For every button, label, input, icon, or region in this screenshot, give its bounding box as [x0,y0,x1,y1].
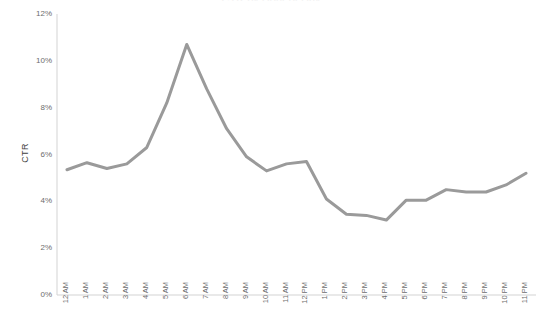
x-axis-ticks: 12 AM1 AM2 AM3 AM4 AM5 AM6 AM7 AM8 AM9 A… [57,296,536,334]
x-tick-label: 7 AM [201,280,210,324]
x-tick-label: 11 PM [520,280,529,324]
x-tick-label: 1 AM [81,280,90,324]
x-tick-label: 5 PM [400,280,409,324]
ctr-series-line [67,44,526,220]
x-tick-label: 4 PM [380,280,389,324]
x-tick-label: 9 PM [480,280,489,324]
x-tick-label: 10 AM [261,280,270,324]
x-tick-label: 12 PM [300,280,309,324]
x-tick-label: 6 PM [420,280,429,324]
x-tick-label: 2 PM [340,280,349,324]
x-tick-label: 7 PM [440,280,449,324]
line-chart: CTR by Hour of Day CTR 0%2%4%6%8%10%12% … [0,0,542,334]
x-tick-label: 2 AM [101,280,110,324]
x-tick-label: 6 AM [181,280,190,324]
x-tick-label: 8 PM [460,280,469,324]
x-tick-label: 1 PM [320,280,329,324]
x-tick-label: 4 AM [141,280,150,324]
x-tick-label: 9 AM [241,280,250,324]
x-tick-label: 10 PM [500,280,509,324]
x-tick-label: 3 AM [121,280,130,324]
x-tick-label: 12 AM [61,280,70,324]
x-tick-label: 5 AM [161,280,170,324]
x-tick-label: 11 AM [281,280,290,324]
x-tick-label: 8 AM [221,280,230,324]
x-tick-label: 3 PM [360,280,369,324]
